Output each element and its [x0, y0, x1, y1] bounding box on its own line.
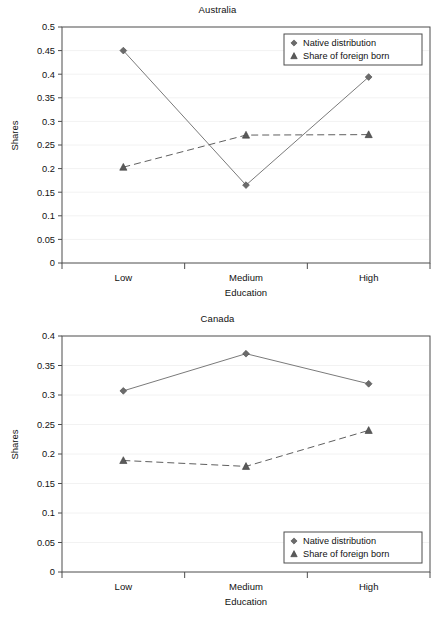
x-axis-category-label: High [359, 581, 379, 592]
y-axis-tick-label: 0.4 [42, 331, 55, 341]
plot-area-australia: 00.050.10.150.20.250.30.350.40.450.5LowM… [0, 0, 435, 308]
y-axis-tick-label: 0.35 [37, 361, 55, 371]
x-axis-category-label: Medium [229, 272, 263, 283]
data-point-marker-foreign [365, 427, 372, 434]
y-axis-tick-label: 0.3 [42, 117, 55, 127]
y-axis-tick-label: 0.05 [37, 235, 55, 245]
y-axis-tick-label: 0.2 [42, 164, 55, 174]
y-axis-tick-label: 0 [50, 258, 55, 268]
y-axis-tick-label: 0.1 [42, 211, 55, 221]
y-axis-tick-label: 0.25 [37, 420, 55, 430]
plot-area-canada: 00.050.10.150.20.250.30.350.4LowMediumHi… [0, 309, 435, 617]
y-axis-tick-label: 0.5 [42, 22, 55, 32]
y-axis-tick-label: 0.15 [37, 479, 55, 489]
y-axis-tick-label: 0.35 [37, 93, 55, 103]
series-line-foreign [123, 430, 368, 466]
y-axis-tick-label: 0.4 [42, 70, 55, 80]
y-axis-tick-label: 0.25 [37, 140, 55, 150]
legend: Native distributionShare of foreign born [284, 532, 422, 563]
legend-label: Native distribution [303, 536, 376, 546]
y-axis-tick-label: 0.05 [37, 538, 55, 548]
chart-panel-australia: Australia Shares Education 00.050.10.150… [0, 0, 435, 308]
x-axis-category-label: Medium [229, 581, 263, 592]
series-line-native [123, 51, 368, 186]
data-point-marker-foreign [120, 457, 127, 464]
legend-label: Share of foreign born [303, 51, 389, 61]
y-axis-tick-label: 0.45 [37, 46, 55, 56]
y-axis-tick-label: 0.1 [42, 508, 55, 518]
figure-two-panel-line-charts: Australia Shares Education 00.050.10.150… [0, 0, 435, 617]
data-point-marker-native [243, 350, 250, 357]
chart-panel-canada: Canada Shares Education 00.050.10.150.20… [0, 309, 435, 617]
legend: Native distributionShare of foreign born [284, 34, 422, 65]
x-axis-category-label: High [359, 272, 379, 283]
y-axis-tick-label: 0.2 [42, 449, 55, 459]
y-axis-tick-label: 0 [50, 567, 55, 577]
data-point-marker-foreign [242, 131, 249, 138]
legend-label: Share of foreign born [303, 549, 389, 559]
series-line-foreign [123, 135, 368, 168]
legend-label: Native distribution [303, 38, 376, 48]
data-point-marker-native [365, 380, 372, 387]
series-line-native [123, 354, 368, 391]
y-axis-tick-label: 0.15 [37, 188, 55, 198]
x-axis-category-label: Low [115, 581, 133, 592]
y-axis-tick-label: 0.3 [42, 390, 55, 400]
x-axis-category-label: Low [115, 272, 133, 283]
data-point-marker-native [120, 387, 127, 394]
